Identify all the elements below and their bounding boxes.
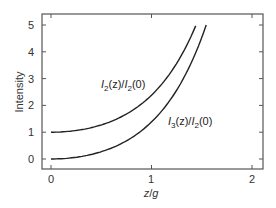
y-tick-5: 5 xyxy=(28,19,34,31)
x-axis-label: z/g xyxy=(143,187,160,199)
annotation-i3: I3(z)/I2(0) xyxy=(168,115,212,130)
plot-frame xyxy=(42,14,263,169)
y-tick-2: 2 xyxy=(28,99,34,111)
y-tick-3: 3 xyxy=(28,73,34,85)
x-axis-ticks xyxy=(51,14,252,169)
y-tick-labels: 0 1 2 3 4 5 xyxy=(28,19,34,165)
chart: 0 1 2 3 4 5 0 1 2 Intensity z/g I2(z)/I2… xyxy=(0,0,276,208)
y-tick-1: 1 xyxy=(28,126,34,138)
y-tick-0: 0 xyxy=(28,153,34,165)
y-axis-label: Intensity xyxy=(13,71,25,112)
x-tick-2: 2 xyxy=(249,173,255,185)
x-tick-1: 1 xyxy=(148,173,154,185)
y-axis-ticks xyxy=(42,25,263,159)
x-tick-labels: 0 1 2 xyxy=(48,173,255,185)
x-tick-0: 0 xyxy=(48,173,54,185)
annotation-i2: I2(z)/I2(0) xyxy=(101,78,145,93)
y-tick-4: 4 xyxy=(28,46,34,58)
